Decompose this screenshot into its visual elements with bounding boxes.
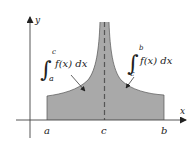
y-axis-label: y	[34, 15, 41, 25]
left-integral-upper-limit: c	[52, 48, 56, 56]
left-integral-integrand: f(x) dx	[54, 58, 88, 69]
tick-label-c: c	[101, 125, 107, 136]
tick-label-b: b	[161, 125, 167, 136]
right-integral-lower-limit: c	[130, 69, 135, 78]
right-integral-integrand: f(x) dx	[139, 55, 173, 66]
shaded-region	[47, 22, 164, 120]
diagram-canvas: y x a c b ∫ c a f(x) dx ∫ b c f(x) dx	[0, 0, 194, 143]
tick-label-a: a	[44, 125, 50, 136]
x-axis-label: x	[180, 106, 185, 116]
right-integral-upper-limit: b	[139, 44, 144, 52]
left-integral-lower-limit: a	[49, 74, 54, 83]
right-integral-annotation: ∫ b c f(x) dx	[126, 44, 173, 88]
left-integral-annotation: ∫ c a f(x) dx	[40, 48, 88, 91]
